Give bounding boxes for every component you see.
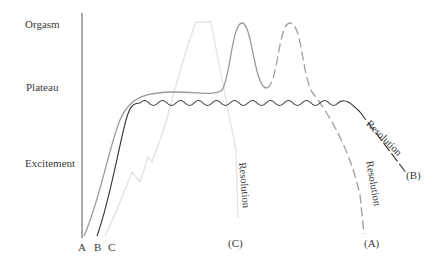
curve-a <box>84 23 266 236</box>
start-label-b: B <box>94 241 101 253</box>
end-label-a: (A) <box>364 237 379 249</box>
curve-a-dashed <box>266 23 364 234</box>
start-label-c: C <box>108 241 115 253</box>
end-label-b: (B) <box>406 169 421 181</box>
curve-b <box>97 101 360 237</box>
start-label-a: A <box>78 241 86 253</box>
end-label-c: (C) <box>228 237 243 249</box>
curve-c <box>105 22 238 236</box>
